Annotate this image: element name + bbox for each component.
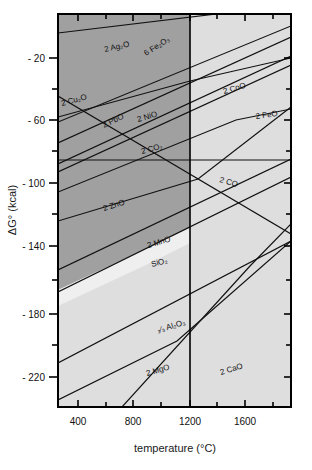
y-tick-label-4: - 180 bbox=[22, 309, 45, 320]
y-tick-label-2: - 100 bbox=[22, 178, 45, 189]
ellingham-diagram-figure: 400 800 1200 1600 - 20 - 60 - 100 - 140 … bbox=[0, 0, 312, 470]
x-tick-label-1: 800 bbox=[125, 416, 142, 427]
y-axis-title: ΔG° (kcal) bbox=[6, 185, 18, 235]
x-tick-label-3: 1600 bbox=[234, 416, 257, 427]
x-axis-title: temperature (°C) bbox=[134, 442, 216, 454]
y-tick-label-5: - 220 bbox=[22, 372, 45, 383]
y-tick-label-1: - 60 bbox=[28, 115, 46, 126]
y-tick-label-3: - 140 bbox=[22, 241, 45, 252]
chart-svg: 400 800 1200 1600 - 20 - 60 - 100 - 140 … bbox=[0, 0, 312, 470]
x-tick-label-0: 400 bbox=[70, 416, 87, 427]
y-axis-ticks bbox=[49, 58, 58, 377]
y-tick-label-0: - 20 bbox=[28, 53, 46, 64]
x-tick-label-2: 1200 bbox=[179, 416, 202, 427]
